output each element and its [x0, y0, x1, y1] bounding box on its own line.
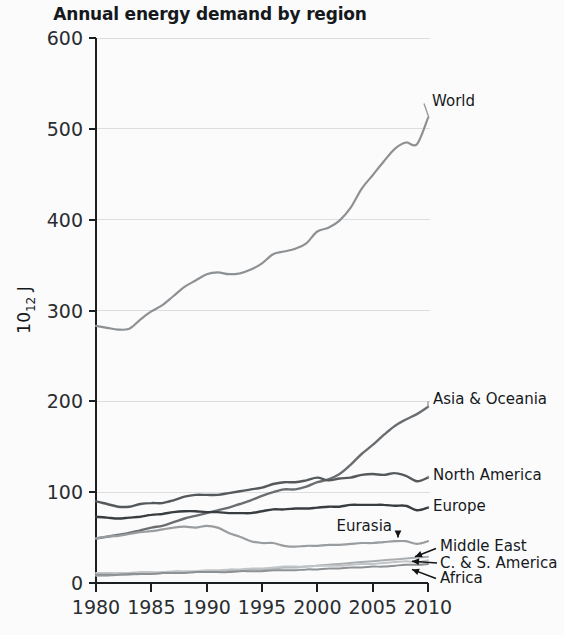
y-tick-label: 300	[47, 300, 83, 322]
y-axis-title-base: 10	[14, 312, 34, 334]
x-tick-label: 2005	[348, 596, 396, 618]
series-line-world	[96, 118, 428, 330]
y-axis-title-exponent: 12	[24, 297, 38, 312]
x-tick-label: 2010	[404, 596, 452, 618]
line-chart-canvas: 0100200300400500600 19801985199019952000…	[0, 0, 564, 635]
series-label-europe: Europe	[433, 497, 486, 515]
eurasia-arrow-head	[395, 531, 402, 538]
x-tick-label: 1980	[72, 596, 120, 618]
y-axis-ticks: 0100200300400500600	[47, 27, 96, 594]
series-lines	[96, 118, 428, 576]
series-line-north-america	[96, 473, 428, 507]
series-label-middle-east: Middle East	[440, 537, 527, 555]
series-label-north-america: North America	[433, 466, 542, 484]
y-tick-label: 600	[47, 27, 83, 49]
y-axis-title-unit: J	[14, 286, 34, 292]
x-tick-label: 1990	[182, 596, 230, 618]
y-tick-label: 400	[47, 209, 83, 231]
series-label-africa: Africa	[440, 569, 483, 587]
x-tick-label: 2000	[293, 596, 341, 618]
series-label-eurasia: Eurasia	[336, 517, 392, 535]
gridlines	[96, 38, 430, 492]
y-tick-label: 200	[47, 390, 83, 412]
series-label-world: World	[432, 92, 475, 110]
chart-root: Annual energy demand by region 010020030…	[0, 0, 564, 635]
y-tick-label: 100	[47, 481, 83, 503]
y-tick-label: 0	[71, 572, 83, 594]
x-tick-label: 1985	[127, 596, 175, 618]
y-tick-label: 500	[47, 118, 83, 140]
series-annotations: WorldAsia & OceaniaNorth AmericaEuropeEu…	[336, 92, 557, 587]
world-leader	[424, 103, 429, 118]
x-axis-ticks: 1980198519901995200020052010	[72, 583, 452, 618]
x-tick-label: 1995	[238, 596, 286, 618]
series-label-asia-oceania: Asia & Oceania	[433, 390, 547, 408]
y-axis-title: 1012 J	[14, 286, 38, 333]
